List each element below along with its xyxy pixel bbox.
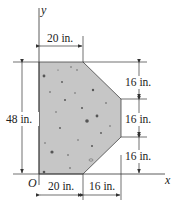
top-width-label: 20 in. [47, 32, 73, 44]
y-axis-label: y [40, 3, 47, 17]
right-bottom-label: 16 in. [125, 150, 151, 162]
origin-label: O [28, 176, 37, 190]
concrete-section [39, 62, 121, 174]
right-middle-label: 16 in. [125, 113, 151, 125]
bottom-right-label: 16 in. [89, 180, 115, 192]
x-axis-label: x [164, 173, 171, 187]
height-label: 48 in. [6, 113, 32, 125]
diagram-canvas: y x O 20 in. 48 in. 16 in. 16 in. 16 in.… [0, 0, 177, 209]
right-top-label: 16 in. [125, 76, 151, 88]
bottom-left-label: 20 in. [48, 180, 74, 192]
